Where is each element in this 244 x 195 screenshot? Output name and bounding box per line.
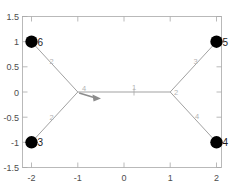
node-label-5: 5 — [223, 37, 229, 48]
y-tick-label: -0.5 — [3, 113, 19, 123]
node-5[interactable] — [210, 36, 222, 48]
y-tick-label: 1 — [14, 37, 19, 47]
edge-j2-5 — [170, 42, 216, 92]
edge-3-j1 — [32, 92, 78, 142]
edge-6-j1 — [32, 42, 78, 92]
graph-edges — [32, 42, 217, 143]
node-4[interactable] — [210, 136, 222, 148]
y-tick-label: 1.5 — [6, 12, 19, 22]
arrow-head-icon — [93, 95, 102, 102]
edge-label-j1-j2: 1 — [132, 83, 136, 92]
edge-label-6-j1: 2 — [49, 57, 53, 66]
node-6[interactable] — [25, 36, 37, 48]
y-tick-label: -1 — [11, 138, 19, 148]
x-tick-label: 2 — [214, 173, 219, 183]
arrow-shaft — [79, 93, 94, 98]
node-label-4: 4 — [223, 137, 229, 148]
junction-label-right: 2 — [174, 88, 178, 97]
edge-label-j2-5: 3 — [193, 57, 197, 66]
edge-label-3-j1: 2 — [49, 113, 53, 122]
y-tick-label: 0 — [14, 88, 19, 98]
node-label-3: 3 — [38, 137, 44, 148]
y-tick-label: 0.5 — [6, 62, 19, 72]
x-tick-label: -1 — [74, 173, 82, 183]
arrow-annotation — [79, 93, 101, 102]
x-tick-labels: -2 -1 0 1 2 — [27, 173, 219, 183]
node-label-6: 6 — [38, 37, 44, 48]
x-tick-label: 0 — [121, 173, 126, 183]
node-3[interactable] — [25, 136, 37, 148]
graph-plot: 1.5 1 0.5 0 -0.5 -1 -1.5 -2 -1 0 1 2 — [0, 0, 244, 195]
x-tick-label: 1 — [168, 173, 173, 183]
junction-label-left: 4 — [82, 84, 86, 93]
edge-j2-4 — [170, 92, 216, 142]
y-tick-labels: 1.5 1 0.5 0 -0.5 -1 -1.5 — [3, 12, 19, 173]
x-tick-label: -2 — [27, 173, 35, 183]
edge-label-j2-4: 4 — [195, 112, 199, 121]
figure-container: 1.5 1 0.5 0 -0.5 -1 -1.5 -2 -1 0 1 2 — [0, 0, 244, 195]
junction-labels: 4 2 — [82, 84, 178, 97]
y-tick-label: -1.5 — [3, 163, 19, 173]
